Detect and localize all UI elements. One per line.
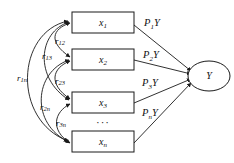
correlation-arc-r2n <box>41 60 69 142</box>
path-label-p1: P1Y <box>143 17 161 30</box>
correlation-label-r13: r13 <box>42 51 53 61</box>
correlation-label-r3n: r3n <box>56 118 66 128</box>
outcome-node-group: Y <box>188 61 230 91</box>
path-label-p2: P2Y <box>142 49 160 62</box>
diagram-canvas: x1 x2 x3 xn ··· Y <box>0 0 234 163</box>
correlation-label-r2n: r2n <box>40 102 50 112</box>
correlation-label-r12: r12 <box>55 36 66 46</box>
path-label-p3: P3Y <box>141 77 159 90</box>
ellipsis-between-nodes: ··· <box>96 116 110 128</box>
predictor-nodes-group: x1 x2 x3 xn <box>72 12 134 152</box>
path-arrow-p1 <box>134 25 191 71</box>
path-diagram: x1 x2 x3 xn ··· Y <box>0 0 234 163</box>
path-label-pn: PnY <box>141 107 159 120</box>
correlation-label-r1n: r1n <box>17 73 27 83</box>
correlation-label-r23: r23 <box>55 76 66 86</box>
path-arrow-p2 <box>134 60 191 74</box>
